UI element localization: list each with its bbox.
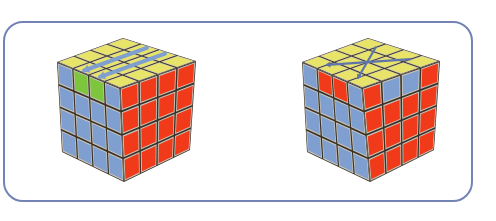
rubiks-cubes-illustration xyxy=(0,0,496,221)
left-cube xyxy=(57,38,196,182)
right-cube xyxy=(302,38,440,182)
